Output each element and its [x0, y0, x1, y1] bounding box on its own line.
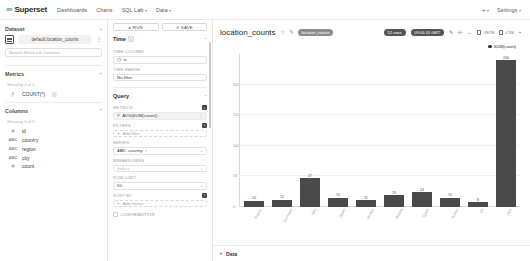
bar[interactable]: 240 — [496, 60, 517, 207]
page-title: location_counts — [220, 28, 276, 37]
data-drawer-toggle[interactable]: ▸ Data — [213, 245, 530, 261]
nav-right-group: +▾ Settings▾ — [482, 7, 524, 13]
plus-icon: + — [117, 130, 120, 136]
control-panel-scrollbar[interactable] — [209, 42, 211, 128]
series-select[interactable]: ABC country × ⌄ — [113, 147, 207, 155]
star-icon[interactable]: ☆ — [280, 29, 285, 35]
columns-section-header[interactable]: Columns ⌃ — [5, 106, 102, 117]
edit-title-icon[interactable]: ✎ — [289, 29, 294, 35]
number-type-icon: # — [8, 163, 18, 169]
add-sort-metric-button[interactable]: + Add metric — [113, 200, 207, 208]
chevron-down-icon[interactable]: ⌄ — [200, 148, 203, 153]
dataset-selector-row[interactable]: default.location_counts ⋮ — [5, 35, 102, 44]
column-label: city — [22, 155, 30, 161]
plot-region: 050100150200 10124715111924158240 — [239, 54, 520, 207]
nav-item-settings[interactable]: Settings▾ — [497, 7, 521, 13]
bar[interactable]: 19 — [384, 195, 405, 207]
query-section-header[interactable]: Query ⌃ — [113, 91, 207, 102]
file-icon — [499, 30, 503, 35]
contribution-checkbox[interactable] — [113, 212, 118, 217]
metric-item-count[interactable]: ƒ COUNT(*) ⓘ — [5, 90, 102, 99]
breakdowns-select[interactable]: Select ⌄ — [113, 165, 207, 173]
time-range-value[interactable]: No filter — [113, 74, 207, 82]
chevron-up-icon[interactable]: ⌃ — [99, 108, 102, 113]
row-limit-select[interactable]: 50 ⌄ — [113, 182, 207, 190]
close-icon[interactable]: × — [145, 148, 147, 153]
bar[interactable]: 15 — [440, 198, 461, 207]
metrics-showing-count: Showing 1 of 1 — [5, 80, 102, 90]
edit-properties-icon[interactable]: ✎ — [449, 29, 453, 35]
column-item-city[interactable]: ABC city — [5, 153, 102, 162]
metrics-section-header[interactable]: Metrics ⌃ — [5, 69, 102, 80]
time-column-value[interactable]: ◷ ts — [113, 56, 207, 64]
save-icon: ⊙ — [176, 25, 179, 30]
contribution-checkbox-row[interactable]: CONTRIBUTION — [113, 207, 207, 217]
sort-by-edit-icon[interactable]: ✎ — [202, 193, 207, 198]
chart-panel: location_counts ☆ ✎ location_counts 52 r… — [213, 20, 530, 261]
dataset-panel-title: Dataset — [5, 26, 24, 32]
chevron-up-icon[interactable]: ⌃ — [99, 72, 102, 77]
close-icon[interactable]: × — [117, 113, 120, 118]
filters-edit-icon[interactable]: ✎ — [202, 123, 207, 128]
dataset-badge[interactable]: location_counts — [298, 29, 334, 36]
plus-icon[interactable]: +▾ — [482, 7, 489, 13]
download-json-button[interactable]: .JSON — [477, 30, 494, 35]
column-item-id[interactable]: # id — [5, 127, 102, 136]
nav-item-data[interactable]: Data▾ — [156, 7, 171, 13]
brand-logo[interactable]: ∞ Superset — [6, 5, 47, 14]
bar[interactable]: 11 — [356, 200, 377, 207]
chevron-up-icon[interactable]: ⌃ — [204, 94, 207, 99]
filters-control-label: FILTERS ✎ — [113, 120, 207, 130]
column-item-region[interactable]: ABC region — [5, 144, 102, 153]
collapse-panel-icon[interactable]: » — [100, 27, 102, 32]
download-csv-button[interactable]: .CSV — [499, 30, 514, 35]
metric-chip[interactable]: × AVG(SUM(count)) ⋮ — [113, 112, 207, 120]
add-filter-button[interactable]: + Add filter — [113, 130, 207, 138]
chart-canvas: SUM(count) 050100150200 1012471511192415… — [213, 42, 530, 245]
legend-label: SUM(count) — [494, 44, 516, 49]
bar[interactable]: 12 — [272, 200, 293, 207]
info-icon[interactable]: ⓘ — [49, 91, 59, 97]
more-options-icon[interactable]: ▪ — [519, 29, 521, 35]
metrics-edit-icon[interactable]: ✎ — [202, 105, 207, 110]
text-type-icon: ABC — [8, 155, 18, 160]
divider — [5, 65, 102, 66]
bar[interactable]: 24 — [412, 192, 433, 207]
chevron-down-icon: ⌄ — [200, 183, 203, 188]
column-item-count[interactable]: # count — [5, 162, 102, 171]
nav-item-dashboards[interactable]: Dashboards — [57, 7, 87, 13]
fullscreen-icon[interactable]: ↔ — [467, 29, 472, 35]
run-save-toolbar: ▸ RUN ⊙ SAVE — [108, 20, 212, 33]
cached-timestamp-badge[interactable]: 09:04:24 GMT — [411, 29, 445, 36]
metric-chip-label: AVG(SUM(count)) — [122, 113, 157, 118]
search-metrics-columns-input[interactable]: Search Metrics & Columns — [5, 48, 102, 57]
time-section-header[interactable]: Time ⓘ ⌃ — [113, 33, 207, 46]
metrics-title: Metrics — [5, 71, 24, 77]
chart-legend[interactable]: SUM(count) — [488, 44, 516, 49]
time-section-title: Time ⓘ — [113, 35, 134, 43]
save-label: SAVE — [181, 25, 193, 30]
column-label: region — [22, 146, 36, 152]
nav-links: Dashboards Charts SQL Lab▾ Data▾ — [57, 7, 171, 13]
bar-value-label: 10 — [252, 196, 256, 200]
column-item-country[interactable]: ABC country — [5, 136, 102, 145]
chevron-up-icon[interactable]: ⌃ — [204, 37, 207, 42]
number-type-icon: # — [8, 128, 18, 134]
text-type-icon: ABC — [8, 146, 18, 151]
bar[interactable]: 47 — [300, 178, 321, 207]
nav-item-charts[interactable]: Charts — [96, 7, 112, 13]
dataset-menu-icon[interactable]: ⋮ — [96, 37, 102, 42]
nav-item-sqllab[interactable]: SQL Lab▾ — [122, 7, 147, 13]
share-icon[interactable]: ⎆ — [458, 29, 462, 36]
bar-slot: 15 — [436, 54, 464, 207]
metric-menu-icon[interactable]: ⋮ — [199, 113, 203, 118]
dataset-name[interactable]: default.location_counts — [18, 35, 92, 44]
save-button[interactable]: ⊙ SAVE — [162, 23, 208, 31]
bar[interactable]: 15 — [328, 198, 349, 207]
divider — [5, 102, 102, 103]
run-button[interactable]: ▸ RUN — [113, 23, 159, 31]
x-axis-labels: FranceGermanyItalyJapanMexicoRussiaSpain… — [240, 207, 520, 227]
metric-label: COUNT(*) — [22, 91, 45, 97]
bar-value-label: 24 — [420, 188, 424, 192]
columns-showing-count: Showing 5 of 5 — [5, 117, 102, 127]
